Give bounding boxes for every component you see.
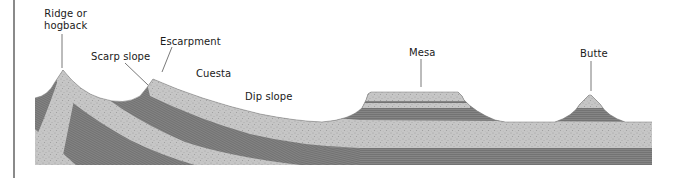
label-butte: Butte xyxy=(580,48,608,60)
label-cuesta: Cuesta xyxy=(196,68,231,80)
rock-strata xyxy=(0,0,681,178)
scarp-slope-leader-line xyxy=(125,63,148,85)
label-mesa: Mesa xyxy=(409,47,436,59)
label-ridge: Ridge or hogback xyxy=(44,8,87,32)
label-escarpment: Escarpment xyxy=(160,36,221,48)
label-ridge-line1: Ridge or xyxy=(44,8,87,20)
escarpment-leader-line xyxy=(162,47,172,72)
label-ridge-line2: hogback xyxy=(44,20,87,32)
cross-section-diagram xyxy=(0,0,681,178)
label-dip-slope: Dip slope xyxy=(245,91,293,103)
label-scarp-slope: Scarp slope xyxy=(91,51,150,63)
